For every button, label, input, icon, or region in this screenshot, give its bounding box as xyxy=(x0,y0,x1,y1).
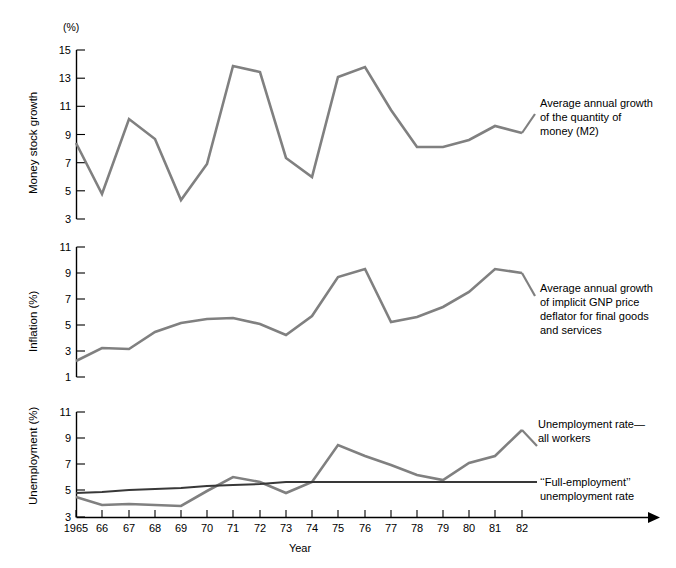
panel-unemployment: 11 9 7 5 3 Unemployment (%) Unemployment… xyxy=(27,406,645,523)
xtick-80: 80 xyxy=(463,522,475,534)
panel1-ytick-7: 7 xyxy=(65,157,71,169)
panel3-ytick-9: 9 xyxy=(65,432,71,444)
panel2-ytick-1: 1 xyxy=(65,371,71,383)
panel3-annot-full-line1: ‘‘Full-employment’’ xyxy=(540,476,631,488)
panel2-annotation: Average annual growth of implicit GNP pr… xyxy=(540,282,653,336)
panel1-ytick-9: 9 xyxy=(65,129,71,141)
panel1-ytick-13: 13 xyxy=(59,72,71,84)
xtick-77: 77 xyxy=(385,522,397,534)
panel2-y-tick-labels: 11 9 7 5 3 1 xyxy=(60,241,71,383)
chart-svg: (%) 15 13 11 9 7 5 3 xyxy=(0,0,676,568)
xtick-70: 70 xyxy=(201,522,213,534)
panel1-annot-line3: money (M2) xyxy=(540,125,599,137)
panel1-ytick-11: 11 xyxy=(60,100,71,112)
panel1-annot-line1: Average annual growth xyxy=(540,97,653,109)
panel2-annot-line2: of implicit GNP price xyxy=(540,296,639,308)
panel-inflation: 11 9 7 5 3 1 Inflation (%) Average annua… xyxy=(27,241,653,383)
xtick-69: 69 xyxy=(175,522,187,534)
panel1-y-ticks xyxy=(77,50,86,219)
panel2-series-deflator-line xyxy=(76,269,522,361)
xtick-76: 76 xyxy=(359,522,371,534)
panel1-ytick-3: 3 xyxy=(65,213,71,225)
xtick-72: 72 xyxy=(254,522,266,534)
panel2-ytick-5: 5 xyxy=(65,319,71,331)
panel3-annotation-unemployment: Unemployment rate— all workers xyxy=(538,418,645,444)
panel3-y-tick-labels: 11 9 7 5 3 xyxy=(60,406,71,523)
panel1-unit-label: (%) xyxy=(63,21,79,33)
panel2-ytick-11: 11 xyxy=(60,241,71,253)
panel2-annotation-leader xyxy=(522,273,535,296)
economic-indicators-figure: (%) 15 13 11 9 7 5 3 xyxy=(0,0,676,568)
panel-money-stock-growth: (%) 15 13 11 9 7 5 3 xyxy=(27,21,653,225)
panel2-ytick-9: 9 xyxy=(65,267,71,279)
xtick-71: 71 xyxy=(227,522,239,534)
panel3-ytick-5: 5 xyxy=(65,484,71,496)
x-axis-ticks xyxy=(76,510,522,518)
xtick-74: 74 xyxy=(306,522,318,534)
panel1-annot-line2: of the quantity of xyxy=(540,111,622,123)
panel3-annotation-leader-unemployment xyxy=(522,430,537,446)
panel2-ytick-3: 3 xyxy=(65,345,71,357)
x-axis-arrow-icon xyxy=(648,512,660,523)
panel3-annot-full-line2: unemployment rate xyxy=(540,490,634,502)
panel3-annotation-full-employment: ‘‘Full-employment’’ unemployment rate xyxy=(540,476,634,502)
xtick-81: 81 xyxy=(489,522,501,534)
panel1-ytick-5: 5 xyxy=(65,185,71,197)
panel1-y-axis-title: Money stock growth xyxy=(27,92,39,194)
x-axis-title: Year xyxy=(289,542,312,554)
panel3-series-unemployment-line xyxy=(76,430,522,506)
panel2-y-axis-title: Inflation (%) xyxy=(27,290,39,352)
xtick-82: 82 xyxy=(516,522,528,534)
x-axis: 1965 66 67 68 69 70 71 72 73 74 75 76 77… xyxy=(64,510,660,554)
panel3-annot-unemp-line1: Unemployment rate— xyxy=(538,418,645,430)
panel1-series-m2-line xyxy=(76,66,522,200)
xtick-68: 68 xyxy=(149,522,161,534)
panel1-annotation-leader xyxy=(522,114,535,133)
xtick-73: 73 xyxy=(280,522,292,534)
xtick-67: 67 xyxy=(123,522,135,534)
panel3-y-ticks xyxy=(77,412,86,517)
panel2-ytick-7: 7 xyxy=(65,293,71,305)
panel1-annotation: Average annual growth of the quantity of… xyxy=(540,97,653,137)
panel3-ytick-7: 7 xyxy=(65,458,71,470)
panel1-y-tick-labels: 15 13 11 9 7 5 3 xyxy=(59,44,71,225)
panel3-ytick-11: 11 xyxy=(60,406,71,418)
x-axis-tick-labels: 1965 66 67 68 69 70 71 72 73 74 75 76 77… xyxy=(64,522,528,534)
panel2-annot-line1: Average annual growth xyxy=(540,282,653,294)
panel2-annot-line3: deflator for final goods xyxy=(540,310,649,322)
xtick-78: 78 xyxy=(411,522,423,534)
panel3-y-axis-title: Unemployment (%) xyxy=(27,406,39,505)
panel3-annot-unemp-line2: all workers xyxy=(538,432,591,444)
xtick-66: 66 xyxy=(96,522,108,534)
xtick-79: 79 xyxy=(437,522,449,534)
xtick-1965: 1965 xyxy=(64,522,88,534)
panel1-ytick-15: 15 xyxy=(59,44,71,56)
xtick-75: 75 xyxy=(332,522,344,534)
panel2-annot-line4: and services xyxy=(540,324,602,336)
